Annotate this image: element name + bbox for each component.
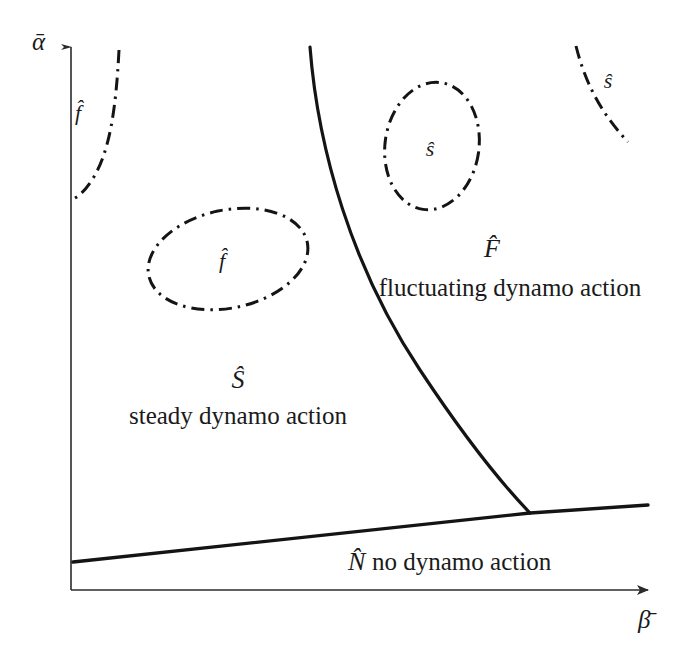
label-s-hat-ellipse: ŝ xyxy=(426,136,435,161)
f-hat-contour-upper-left xyxy=(71,50,119,200)
f-hat-contour-ellipse xyxy=(139,194,318,324)
s-hat-contour-upper-right xyxy=(576,46,628,142)
x-axis-label: β̄ xyxy=(637,606,657,633)
label-f-hat-ellipse: f̂ xyxy=(219,248,229,273)
region-steady-symbol: Ŝ xyxy=(232,365,245,394)
y-axis-label: ᾱ xyxy=(32,28,46,55)
region-no-dynamo: N̂ no dynamo action xyxy=(347,547,552,576)
label-f-hat-upper-left: f̂ xyxy=(75,100,85,125)
phase-diagram-canvas: ᾱ β̄ f̂ f̂ ŝ ŝ F̂ fluc xyxy=(0,0,693,660)
region-steady-caption: steady dynamo action xyxy=(129,402,347,429)
region-no-dynamo-caption: no dynamo action xyxy=(372,548,552,575)
region-fluctuating-symbol: F̂ xyxy=(483,234,501,263)
phase-diagram-figure: ᾱ β̄ f̂ f̂ ŝ ŝ F̂ fluc xyxy=(0,0,693,660)
region-no-dynamo-symbol: N̂ xyxy=(347,547,367,576)
axis-group xyxy=(71,47,648,590)
region-fluctuating: F̂ fluctuating dynamo action xyxy=(379,234,642,301)
solid-boundaries xyxy=(73,47,648,562)
region-fluctuating-caption: fluctuating dynamo action xyxy=(379,274,642,301)
region-steady: Ŝ steady dynamo action xyxy=(129,365,347,429)
label-s-hat-upper-right: ŝ xyxy=(604,68,613,93)
